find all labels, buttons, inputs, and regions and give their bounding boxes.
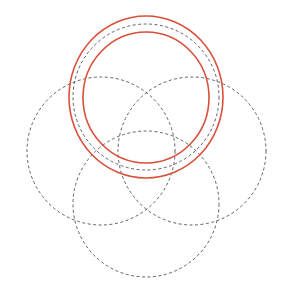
dashed-circle-bottom [73, 131, 219, 277]
dashed-circle-top [73, 24, 219, 170]
dashed-circle-left [27, 77, 175, 225]
diagram-canvas [0, 0, 283, 296]
highlight-ring-outer [69, 16, 223, 178]
highlight-ring-inner [83, 32, 209, 163]
circles-diagram [0, 0, 283, 296]
dashed-circle-right [118, 77, 266, 225]
